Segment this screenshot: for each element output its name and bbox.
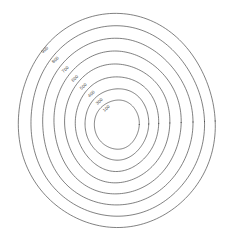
contour-label-400: 400: [87, 89, 96, 98]
contour-label-600: 600: [70, 73, 79, 82]
contour-ring-group: [18, 13, 215, 227]
contour-ring-100: [94, 100, 139, 149]
contour-ring-600: [54, 51, 181, 194]
contour-label-300: 300: [95, 96, 104, 105]
contour-ring-900: [18, 13, 215, 227]
contour-label-800: 800: [51, 55, 60, 64]
contour-ring-500: [65, 64, 170, 183]
contour-label-700: 700: [61, 64, 70, 73]
contour-figure: 900800700600500400300100: [0, 0, 232, 239]
contour-ring-700: [43, 38, 193, 205]
contour-ring-400: [75, 77, 158, 172]
contour-plot-canvas: 900800700600500400300100: [0, 0, 232, 239]
contour-label-500: 500: [79, 81, 88, 90]
contour-label-100: 100: [102, 103, 111, 112]
contour-label-group: 900800700600500400300100: [40, 45, 111, 113]
contour-label-900: 900: [40, 45, 49, 54]
contour-ring-800: [31, 26, 205, 216]
